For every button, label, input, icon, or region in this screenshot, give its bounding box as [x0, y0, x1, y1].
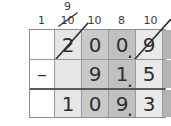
digit-r3c2: 0: [89, 92, 102, 116]
digit-r1c1: 2: [62, 33, 75, 57]
digit-r2c4: 5: [143, 62, 156, 86]
operator-cell-row1: [30, 30, 55, 59]
operator-cell-row3: [30, 90, 55, 117]
digit-cell-r1c4: 9: [136, 30, 163, 59]
digit-cell-r3c2: 0: [82, 90, 109, 117]
digit-cell-r3c1: 1: [55, 90, 82, 117]
digit-cell-r1c1: 2: [55, 30, 82, 59]
regroup-mark-3: 8: [108, 14, 135, 28]
digit-r2c2: 9: [89, 62, 102, 86]
digit-r3c1: 1: [62, 92, 75, 116]
digit-cell-r3c3: 9 .: [109, 90, 136, 117]
regroup-mark-2: 10: [81, 14, 108, 28]
decimal-point-row1: .: [127, 46, 133, 56]
digit-r1c1-wrap: 2: [62, 33, 75, 57]
digit-cell-r2c4: 5: [136, 60, 163, 88]
operator-cell-row2: –: [30, 60, 55, 88]
subtraction-grid: 2 0 0 . 9: [29, 29, 166, 118]
regroup-mark-0: 1: [29, 14, 54, 28]
regroup-value-4: 10: [144, 14, 158, 27]
minus-operator: –: [37, 64, 47, 84]
regroup-value-3: 8: [118, 14, 125, 27]
digit-cell-r1c5: 0: [163, 30, 171, 59]
digit-r1c2: 0: [89, 33, 102, 57]
regroup-carry-1: 9: [54, 0, 81, 14]
digit-cell-r2c5: 2: [163, 60, 171, 88]
digit-cell-r3c4: 3: [136, 90, 163, 117]
regroup-value-2: 10: [88, 14, 102, 27]
regroup-mark-4: 10: [135, 14, 166, 28]
digit-cell-r1c2: 0: [82, 30, 109, 59]
decimal-point-row2: .: [127, 75, 133, 85]
digit-cell-r1c3: 0 .: [109, 30, 136, 59]
table-row-subtrahend: – 9 1 . 5 2: [30, 59, 165, 88]
digit-r1c4-wrap: 9: [143, 33, 156, 57]
digit-cell-r2c1: [55, 60, 82, 88]
subtraction-worksheet: 1 9 10 10 8 10: [0, 0, 171, 126]
digit-cell-r2c2: 9: [82, 60, 109, 88]
regrouping-annotations: 1 9 10 10 8 10: [0, 0, 171, 30]
regroup-value-0: 1: [38, 14, 45, 27]
table-row-minuend: 2 0 0 . 9: [30, 30, 165, 59]
decimal-point-row3: .: [127, 104, 133, 114]
digit-r3c4: 3: [143, 92, 156, 116]
digit-cell-r2c3: 1 .: [109, 60, 136, 88]
regroup-struck-10: 10: [61, 14, 75, 28]
digit-r1c4: 9: [143, 33, 156, 57]
regroup-mark-1: 10: [54, 14, 81, 28]
digit-cell-r3c5: 8: [163, 90, 171, 117]
regroup-carry-value-1: 9: [64, 0, 71, 13]
regroup-value-1: 10: [61, 14, 75, 27]
table-row-difference: 1 0 9 . 3 8: [30, 88, 165, 117]
